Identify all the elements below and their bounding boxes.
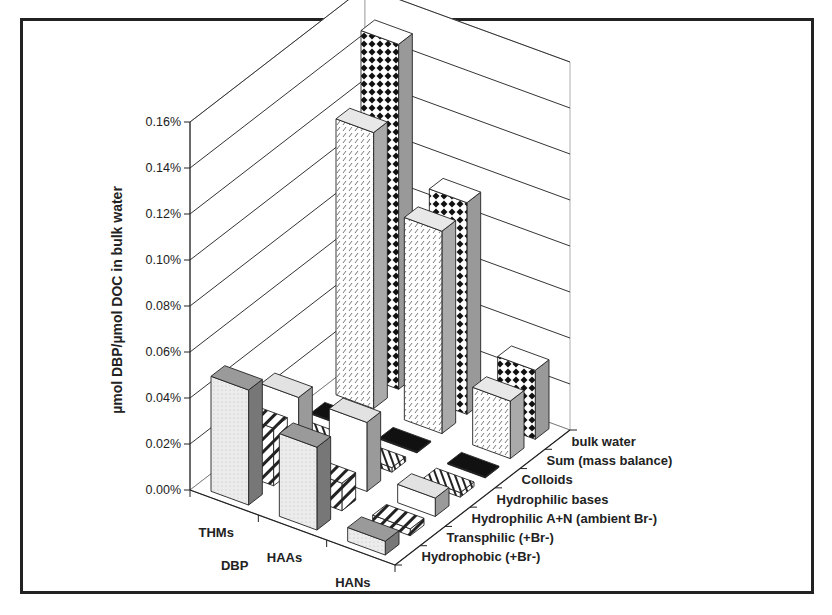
depth-label: Colloids — [522, 472, 573, 487]
y-tick-label: 0.06% — [146, 345, 181, 359]
depth-label: Hydrophobic (+Br-) — [422, 549, 541, 564]
y-tick-label: 0.12% — [146, 207, 181, 221]
y-tick-label: 0.10% — [146, 253, 181, 267]
category-label: HAAs — [267, 550, 302, 565]
bar — [211, 366, 262, 505]
y-tick-label: 0.00% — [146, 483, 181, 497]
depth-label: Transphilic (+Br-) — [447, 530, 554, 545]
bar — [473, 377, 524, 459]
y-axis-title: µmol DBP/µmol DOC in bulk water — [109, 186, 125, 414]
depth-label: Hydrophilic A+N (ambient Br-) — [472, 511, 658, 526]
y-tick-label: 0.02% — [146, 437, 181, 451]
y-tick-label: 0.14% — [146, 161, 181, 175]
bar — [336, 108, 387, 408]
bar — [279, 423, 330, 530]
depth-label: Sum (mass balance) — [547, 453, 673, 468]
y-tick-label: 0.08% — [146, 299, 181, 313]
3d-bar-chart: 0.00%0.02%0.04%0.06%0.08%0.10%0.12%0.14%… — [0, 0, 832, 615]
y-tick-label: 0.04% — [146, 391, 181, 405]
bar — [404, 207, 455, 434]
depth-label: Hydrophilic bases — [497, 492, 609, 507]
category-label: THMs — [198, 525, 233, 540]
depth-label: bulk water — [572, 434, 636, 449]
x-axis-title: DBP — [221, 558, 249, 573]
category-label: HANs — [335, 575, 370, 590]
y-tick-label: 0.16% — [146, 115, 181, 129]
